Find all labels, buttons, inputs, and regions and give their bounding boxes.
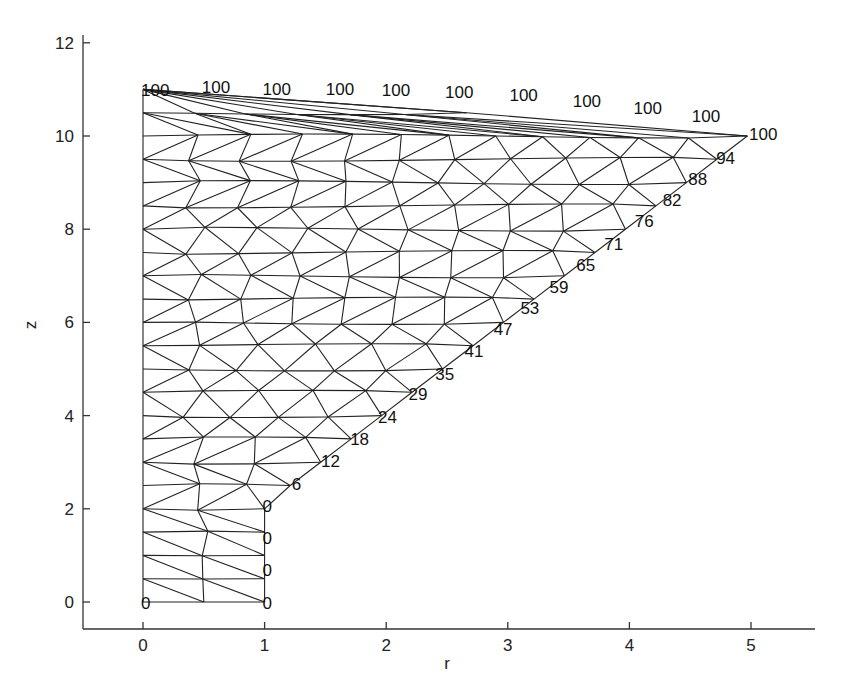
mesh-edge: [241, 298, 293, 299]
node-value-label: 18: [350, 430, 369, 449]
mesh-edge: [673, 157, 686, 182]
node-value-label: 71: [604, 235, 623, 254]
mesh-edge: [186, 254, 239, 255]
mesh-edge: [143, 322, 195, 346]
mesh-edge: [241, 275, 251, 299]
mesh-edge: [689, 136, 748, 138]
mesh-edge: [306, 417, 328, 437]
mesh-edge: [186, 181, 250, 208]
mesh-edge: [258, 345, 285, 371]
x-tick-label: 3: [503, 636, 512, 655]
mesh-edge: [258, 344, 315, 345]
mesh-edge: [143, 391, 203, 392]
mesh-edge: [143, 135, 198, 136]
y-tick-label: 4: [65, 407, 74, 426]
mesh-edge: [566, 158, 579, 184]
mesh-edge: [230, 418, 255, 437]
mesh-edge: [292, 324, 316, 344]
node-value-label: 53: [520, 299, 539, 318]
mesh-edge: [195, 299, 240, 322]
mesh-edge: [259, 390, 279, 417]
mesh-edge: [293, 298, 345, 299]
mesh-edge: [399, 251, 451, 278]
mesh-edge: [143, 253, 186, 255]
mesh-plot: 012345 024681012 r z 0000061218242935414…: [0, 0, 845, 696]
node-value-label: 100: [263, 80, 291, 99]
mesh-edge: [198, 484, 200, 510]
mesh-edge: [449, 135, 455, 159]
mesh-edge: [620, 138, 638, 158]
mesh-edge: [531, 158, 566, 184]
mesh-edge: [510, 204, 561, 231]
mesh-edge: [143, 159, 200, 180]
node-value-label: 100: [141, 81, 169, 100]
mesh-edge: [292, 298, 345, 324]
mesh-edge: [563, 231, 595, 252]
mesh-edge: [188, 274, 201, 299]
mesh-edge: [200, 345, 236, 370]
mesh-edge: [400, 205, 455, 206]
mesh-edge: [205, 227, 239, 253]
mesh-edge: [386, 344, 426, 371]
mesh-edge: [300, 276, 349, 277]
mesh-edge: [392, 182, 438, 183]
node-value-label: 41: [464, 342, 483, 361]
mesh-edge: [143, 276, 188, 300]
mesh-edge: [308, 228, 346, 252]
mesh-edge: [203, 371, 236, 391]
node-value-label: 82: [663, 191, 682, 210]
y-ticks: 024681012: [55, 34, 90, 612]
mesh-edge: [188, 299, 240, 300]
mesh-edge: [239, 228, 257, 254]
mesh-edge: [399, 230, 408, 251]
mesh-edge: [531, 184, 562, 204]
mesh-edge: [236, 371, 259, 391]
mesh-edge: [195, 113, 303, 134]
mesh-edge: [195, 113, 246, 114]
mesh-edge: [562, 204, 564, 231]
mesh-edge: [328, 417, 351, 439]
node-value-label: 100: [692, 107, 720, 126]
node-value-label: 100: [749, 125, 777, 144]
x-tick-label: 4: [625, 636, 634, 655]
mesh-edge: [349, 251, 399, 277]
mesh-edge: [392, 182, 400, 206]
mesh-edge: [186, 227, 205, 254]
mesh-edge: [292, 298, 293, 323]
y-tick-label: 0: [65, 593, 74, 612]
mesh-edge: [345, 277, 349, 298]
mesh-edge: [399, 160, 455, 161]
mesh-edge: [245, 114, 352, 134]
mesh-edge: [345, 182, 392, 207]
node-value-label: 100: [573, 92, 601, 111]
mesh-edge: [189, 370, 236, 371]
mesh-edge: [509, 204, 511, 231]
mesh-edge: [349, 277, 399, 278]
mesh-edge: [143, 392, 183, 417]
mesh-edge: [341, 324, 371, 344]
y-tick-label: 6: [65, 313, 74, 332]
node-value-label: 6: [292, 475, 301, 494]
mesh-edge: [408, 230, 459, 231]
mesh-edge: [143, 181, 200, 206]
node-value-label: 29: [409, 385, 428, 404]
mesh-edge: [257, 207, 291, 227]
mesh-edge: [203, 391, 230, 418]
mesh-edge: [143, 555, 203, 579]
node-value-label: 100: [633, 99, 661, 118]
mesh-edge: [292, 228, 308, 253]
axes: 012345 024681012 r z: [21, 34, 815, 673]
mesh-edge: [291, 181, 299, 207]
mesh-edge: [195, 322, 199, 345]
mesh-edge: [553, 251, 565, 276]
mesh-edge: [345, 134, 402, 160]
mesh-edge: [143, 227, 205, 229]
node-value-label: 47: [494, 320, 513, 339]
mesh-edge: [366, 371, 386, 391]
mesh-edge: [504, 278, 534, 299]
mesh-edge: [345, 160, 400, 161]
mesh-edge: [629, 183, 687, 185]
mesh-edge: [579, 185, 613, 204]
mesh-edge: [438, 160, 455, 183]
node-value-label: 24: [378, 408, 397, 427]
